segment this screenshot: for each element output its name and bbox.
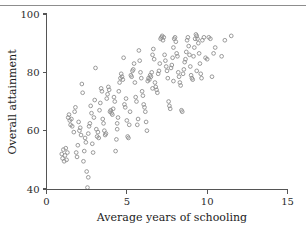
data-point	[136, 117, 140, 121]
data-point	[73, 110, 77, 114]
data-point	[92, 116, 96, 120]
y-tick-label: 60	[27, 125, 40, 136]
data-point	[86, 186, 90, 190]
data-point	[89, 104, 93, 108]
data-point	[167, 100, 171, 104]
data-point	[181, 72, 185, 76]
data-point	[81, 91, 85, 95]
data-point	[192, 54, 196, 58]
data-point	[172, 79, 176, 83]
data-point	[98, 101, 102, 105]
data-point	[86, 132, 90, 136]
data-point	[72, 130, 76, 134]
data-point	[152, 57, 156, 61]
data-point	[94, 66, 98, 70]
data-point	[135, 123, 139, 127]
data-point	[139, 70, 143, 74]
data-point	[117, 89, 121, 93]
data-point	[118, 81, 122, 85]
data-point	[200, 76, 204, 80]
data-point	[133, 81, 137, 85]
data-point	[164, 65, 168, 69]
data-point	[151, 47, 155, 51]
data-point	[113, 100, 117, 104]
data-point	[106, 92, 110, 96]
data-point	[93, 98, 97, 102]
data-point	[114, 149, 118, 153]
data-point	[128, 110, 132, 114]
data-point	[83, 136, 87, 140]
data-point	[86, 175, 90, 179]
data-point	[139, 76, 143, 80]
data-point	[188, 53, 192, 57]
data-point	[137, 49, 141, 53]
data-point	[144, 120, 148, 124]
data-point	[79, 133, 83, 137]
data-point	[187, 44, 191, 48]
data-point	[91, 151, 95, 155]
data-point	[172, 46, 176, 50]
scatter-plot-figure: 406080100 051015 Average years of school…	[0, 0, 306, 230]
data-point	[140, 89, 144, 93]
data-point	[135, 100, 139, 104]
data-point	[151, 53, 155, 57]
data-point	[165, 69, 169, 73]
x-tick-label: 15	[281, 196, 294, 207]
x-axis-ticks: 051015	[43, 190, 294, 208]
data-point	[199, 72, 203, 76]
data-point	[74, 105, 78, 109]
y-axis-ticks: 406080100	[20, 9, 46, 195]
data-point	[115, 138, 119, 142]
data-point	[77, 120, 81, 124]
data-point	[101, 117, 105, 121]
data-point	[182, 68, 186, 72]
data-point	[164, 59, 168, 63]
data-point	[197, 52, 201, 56]
data-point	[115, 127, 119, 131]
data-point	[229, 34, 233, 38]
data-point	[176, 70, 180, 74]
data-point	[192, 46, 196, 50]
data-point	[145, 129, 149, 133]
y-axis-title: Overall attainment	[6, 49, 19, 155]
data-point	[153, 81, 157, 85]
data-points-group	[60, 33, 233, 190]
data-point	[98, 108, 102, 112]
data-point	[90, 142, 94, 146]
data-point	[195, 69, 199, 73]
data-point	[82, 149, 86, 153]
scatter-plot-canvas: 406080100 051015 Average years of school…	[0, 0, 306, 230]
data-point	[82, 159, 86, 163]
data-point	[184, 50, 188, 54]
data-point	[105, 97, 109, 101]
data-point	[134, 95, 138, 99]
x-axis-title: Average years of schooling	[96, 211, 247, 224]
data-point	[74, 151, 78, 155]
data-point	[116, 116, 120, 120]
x-tick-label: 10	[201, 196, 214, 207]
y-tick-label: 100	[20, 9, 39, 20]
data-point	[85, 170, 89, 174]
data-point	[75, 155, 79, 159]
data-point	[124, 97, 128, 101]
data-point	[158, 62, 162, 66]
data-point	[112, 95, 116, 99]
data-point	[76, 143, 80, 147]
data-point	[163, 53, 167, 57]
data-point	[198, 62, 202, 66]
data-point	[102, 122, 106, 126]
data-point	[196, 41, 200, 45]
x-tick-label: 0	[43, 196, 49, 207]
data-point	[115, 122, 119, 126]
data-point	[127, 123, 131, 127]
data-point	[125, 119, 129, 123]
y-tick-label: 40	[27, 184, 40, 195]
x-tick-label: 5	[124, 196, 130, 207]
data-point	[177, 75, 181, 79]
data-point	[138, 59, 142, 63]
data-point	[132, 62, 136, 66]
data-point	[220, 54, 224, 58]
data-point	[122, 56, 126, 60]
data-point	[210, 75, 214, 79]
y-tick-label: 80	[27, 67, 40, 78]
